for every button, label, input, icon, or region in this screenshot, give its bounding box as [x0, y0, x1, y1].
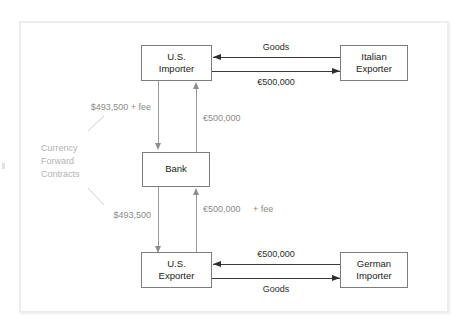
euros-top-label: €500,000 [239, 76, 313, 88]
importer-to-bank-arrowhead [155, 143, 161, 150]
importer-to-bank-fee: + fee [131, 102, 151, 112]
node-german-importer[interactable]: German Importer [340, 252, 408, 288]
group-label-line3: Contracts [41, 169, 80, 179]
goods-bottom-label: Goods [239, 283, 313, 295]
bank-to-exporter-line [158, 187, 159, 246]
exporter-to-bank-arrowhead [193, 188, 199, 195]
euros-bottom-arrowhead [213, 261, 221, 267]
node-italian-exporter-line2: Exporter [356, 63, 392, 76]
node-bank[interactable]: Bank [142, 152, 210, 187]
node-us-importer[interactable]: U.S. Importer [141, 45, 212, 81]
node-us-exporter-line1: U.S. [167, 258, 185, 271]
node-italian-exporter[interactable]: Italian Exporter [340, 45, 408, 81]
bank-to-importer-label: €500,000 [203, 112, 241, 124]
importer-to-bank-amount: $493,500 [91, 102, 129, 112]
group-label-line1: Currency [41, 143, 78, 153]
euros-bottom-line [213, 264, 340, 265]
exporter-to-bank-amount: €500,000 [203, 204, 241, 214]
currency-forward-contracts-label: Currency Forward Contracts [41, 142, 103, 181]
node-german-importer-line2: Importer [356, 270, 391, 283]
euros-top-arrowhead [332, 68, 340, 74]
goods-bottom-line [212, 278, 340, 279]
bank-to-importer-line [196, 88, 197, 152]
euros-top-line [212, 71, 340, 72]
group-label-line2: Forward [41, 156, 74, 166]
bank-to-exporter-label: $493,500 [85, 209, 151, 221]
exporter-to-bank-label: €500,000 + fee [203, 203, 273, 215]
node-us-exporter-line2: Exporter [159, 270, 195, 283]
node-us-importer-line2: Importer [159, 63, 194, 76]
node-bank-line1: Bank [165, 163, 187, 176]
node-us-importer-line1: U.S. [167, 51, 185, 64]
bank-to-importer-arrowhead [193, 82, 199, 89]
node-german-importer-line1: German [357, 258, 391, 271]
exporter-to-bank-line [196, 194, 197, 252]
diagram-canvas: Goods €500,000 $493,500 + fee €500,000 $… [0, 0, 467, 333]
importer-to-bank-line [158, 81, 159, 143]
euros-bottom-label: €500,000 [239, 248, 313, 260]
goods-top-label: Goods [239, 41, 313, 53]
exporter-to-bank-fee: + fee [243, 204, 273, 214]
goods-top-line [213, 57, 340, 58]
goods-bottom-arrowhead [332, 275, 340, 281]
goods-top-arrowhead [213, 54, 221, 60]
node-us-exporter[interactable]: U.S. Exporter [141, 252, 212, 288]
node-italian-exporter-line1: Italian [361, 51, 386, 64]
importer-to-bank-label: $493,500 + fee [85, 101, 151, 113]
